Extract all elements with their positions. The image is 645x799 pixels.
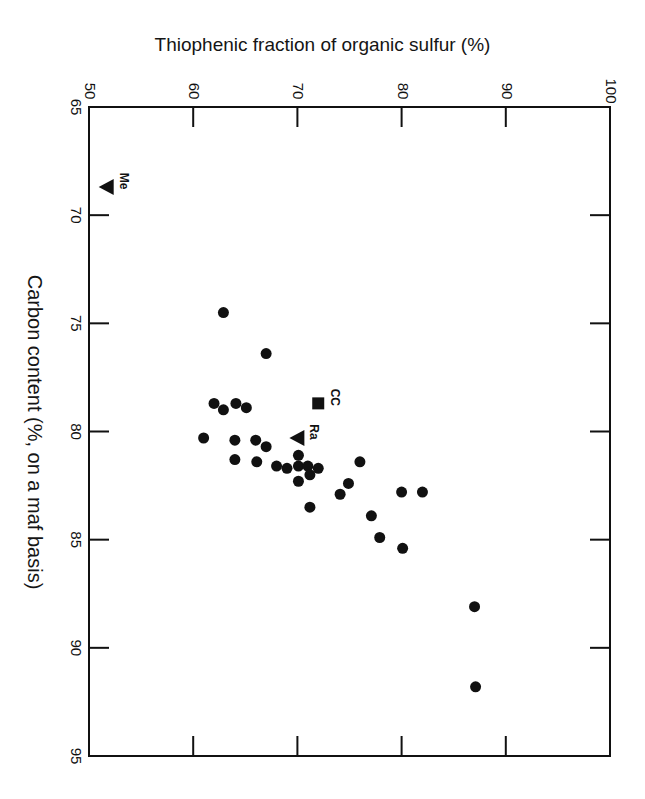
y-tick-label: 90 — [68, 639, 85, 656]
y-tick-label: 85 — [68, 531, 85, 548]
data-point-circle — [304, 502, 315, 513]
data-point-circle — [304, 469, 315, 480]
point-label: Me — [117, 173, 131, 190]
data-point-circle — [354, 456, 365, 467]
data-point-circle — [261, 348, 272, 359]
data-point-circle — [209, 398, 220, 409]
data-point-circle — [261, 441, 272, 452]
point-label: CC — [328, 389, 342, 407]
data-point-circle — [470, 681, 481, 692]
data-point-square — [312, 397, 324, 409]
data-point-circle — [396, 487, 407, 498]
data-point-circle — [469, 601, 480, 612]
data-point-circle — [417, 487, 428, 498]
y-tick-label: 80 — [68, 423, 85, 440]
data-point-circle — [251, 456, 262, 467]
x-tick-label: 50 — [82, 83, 99, 100]
point-label: Ra — [307, 424, 321, 440]
data-point-triangle — [99, 179, 114, 195]
data-point-circle — [293, 476, 304, 487]
plot-border — [89, 107, 610, 756]
x-tick-label: 100 — [603, 78, 620, 103]
y-tick-label: 95 — [68, 748, 85, 765]
data-points: MeCCRa — [99, 173, 481, 693]
data-point-circle — [229, 454, 240, 465]
x-tick-label: 80 — [395, 83, 412, 100]
data-point-circle — [343, 478, 354, 489]
data-point-circle — [293, 461, 304, 472]
x-tick-label: 70 — [290, 83, 307, 100]
data-point-circle — [374, 532, 385, 543]
data-point-circle — [281, 463, 292, 474]
data-point-circle — [366, 510, 377, 521]
data-point-circle — [397, 543, 408, 554]
scatter-plot: 506070809010065707580859095 MeCCRa — [0, 0, 645, 799]
x-tick-label: 90 — [499, 83, 516, 100]
data-point-circle — [271, 461, 282, 472]
data-point-circle — [230, 398, 241, 409]
data-point-circle — [335, 489, 346, 500]
y-tick-label: 65 — [68, 99, 85, 116]
data-point-circle — [198, 432, 209, 443]
data-point-circle — [241, 402, 252, 413]
data-point-circle — [229, 435, 240, 446]
y-tick-label: 70 — [68, 207, 85, 224]
data-point-circle — [218, 404, 229, 415]
data-point-circle — [250, 435, 261, 446]
axis-ticks: 506070809010065707580859095 — [68, 78, 620, 764]
plot-frame — [89, 107, 610, 756]
x-tick-label: 60 — [186, 83, 203, 100]
data-point-circle — [293, 450, 304, 461]
data-point-triangle — [289, 430, 304, 446]
data-point-circle — [218, 307, 229, 318]
y-tick-label: 75 — [68, 315, 85, 332]
